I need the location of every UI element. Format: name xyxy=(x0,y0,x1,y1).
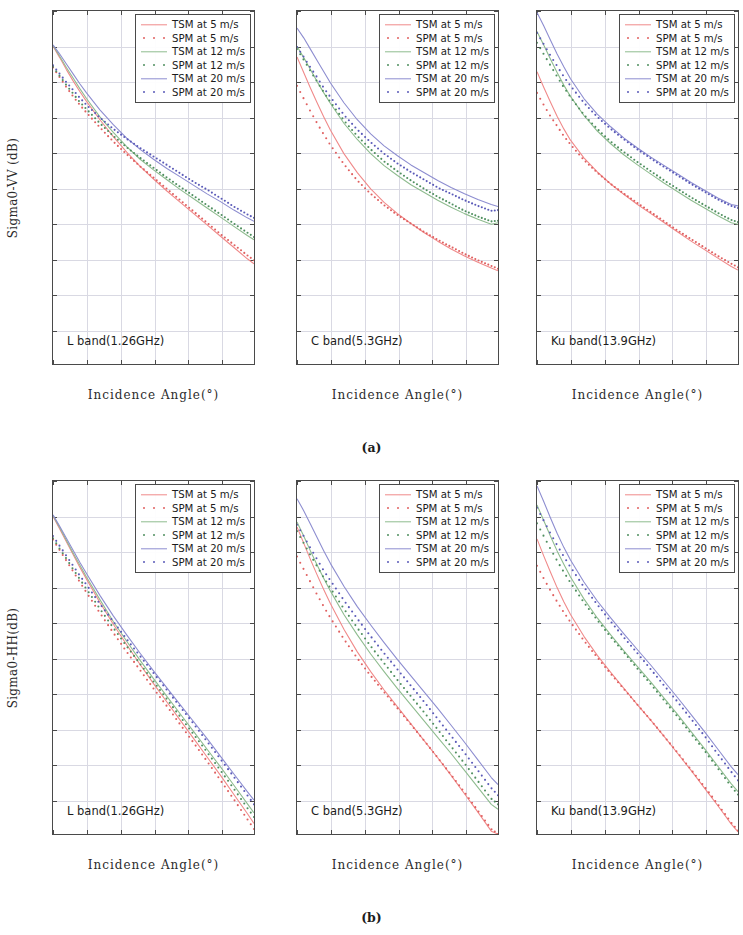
figure-row-hh: Sigma0-HH(dB) 102030405060701050−5−10−15… xyxy=(0,470,743,935)
legend: TSM at 5 m/sSPM at 5 m/sTSM at 12 m/sSPM… xyxy=(619,14,735,103)
y-axis-label-vv: Sigma0-VV (dB) xyxy=(0,0,26,375)
legend-item: SPM at 12 m/s xyxy=(383,59,489,73)
legend-item: TSM at 12 m/s xyxy=(383,515,489,529)
plot-area: 102030405060701050−5−10−15−20−25−30−35−4… xyxy=(536,10,739,365)
x-axis-label: Incidence Angle(°) xyxy=(296,388,499,402)
legend-item-label: TSM at 12 m/s xyxy=(169,516,245,527)
legend-item: TSM at 12 m/s xyxy=(383,45,489,59)
legend-item-label: TSM at 20 m/s xyxy=(653,73,729,84)
legend-item-label: SPM at 5 m/s xyxy=(169,503,239,514)
legend-item: SPM at 5 m/s xyxy=(383,502,489,516)
legend-dots-swatch xyxy=(383,556,413,570)
legend-line-swatch xyxy=(383,45,413,59)
legend-dots-swatch xyxy=(383,59,413,73)
legend-item: TSM at 5 m/s xyxy=(623,18,729,32)
legend-line-swatch xyxy=(139,18,169,32)
legend-item: SPM at 5 m/s xyxy=(139,502,245,516)
legend-item: TSM at 12 m/s xyxy=(139,515,245,529)
legend-item: SPM at 20 m/s xyxy=(383,556,489,570)
legend-item: SPM at 5 m/s xyxy=(139,32,245,46)
x-axis-label: Incidence Angle(°) xyxy=(536,388,739,402)
legend-dots-swatch xyxy=(139,59,169,73)
panel-hh-c-band: 102030405060701050−5−10−15−20−25−30−35−4… xyxy=(270,470,503,890)
legend-item-label: TSM at 12 m/s xyxy=(413,516,489,527)
legend-item-label: SPM at 20 m/s xyxy=(653,557,729,568)
legend-item-label: SPM at 20 m/s xyxy=(169,87,245,98)
legend-line-swatch xyxy=(139,45,169,59)
legend-item-label: TSM at 20 m/s xyxy=(169,543,245,554)
legend-dots-swatch xyxy=(139,86,169,100)
legend-dots-swatch xyxy=(623,502,653,516)
legend-item: SPM at 12 m/s xyxy=(623,529,729,543)
legend-item: SPM at 12 m/s xyxy=(623,59,729,73)
legend-item-label: TSM at 5 m/s xyxy=(413,19,483,30)
legend-line-swatch xyxy=(383,515,413,529)
legend-item-label: TSM at 12 m/s xyxy=(653,46,729,57)
x-axis-label: Incidence Angle(°) xyxy=(536,858,739,872)
legend-item-label: SPM at 5 m/s xyxy=(413,503,483,514)
panel-vv-ku-band: 102030405060701050−5−10−15−20−25−30−35−4… xyxy=(510,0,743,420)
legend: TSM at 5 m/sSPM at 5 m/sTSM at 12 m/sSPM… xyxy=(135,484,251,573)
legend-item: TSM at 12 m/s xyxy=(139,45,245,59)
legend-item: TSM at 5 m/s xyxy=(383,488,489,502)
plot-area: 102030405060701050−5−10−15−20−25−30−35−4… xyxy=(296,10,499,365)
legend-item-label: SPM at 5 m/s xyxy=(653,33,723,44)
legend-item-label: TSM at 20 m/s xyxy=(413,543,489,554)
legend-item: SPM at 20 m/s xyxy=(139,556,245,570)
band-label: L band(1.26GHz) xyxy=(67,804,164,818)
panel-hh-ku-band: 102030405060701050−5−10−15−20−25−30−35−4… xyxy=(510,470,743,890)
y-axis-label-hh-text: Sigma0-HH(dB) xyxy=(6,607,20,708)
series-dots xyxy=(53,537,254,818)
legend-dots-swatch xyxy=(383,529,413,543)
x-axis-label: Incidence Angle(°) xyxy=(296,858,499,872)
legend-item: TSM at 20 m/s xyxy=(623,72,729,86)
legend-item-label: SPM at 12 m/s xyxy=(169,60,245,71)
figure-row-vv: Sigma0-VV (dB) 102030405060701050−5−10−1… xyxy=(0,0,743,465)
legend-item: TSM at 5 m/s xyxy=(139,488,245,502)
legend-dots-swatch xyxy=(139,502,169,516)
legend-line-swatch xyxy=(623,45,653,59)
legend-item: SPM at 20 m/s xyxy=(383,86,489,100)
legend-line-swatch xyxy=(623,515,653,529)
plot-area: 102030405060701050−5−10−15−20−25−30−35−4… xyxy=(536,480,739,835)
panel-hh-l-band: 102030405060701050−5−10−15−20−25−30−35−4… xyxy=(26,470,259,890)
legend-item-label: TSM at 5 m/s xyxy=(169,19,239,30)
legend-dots-swatch xyxy=(623,556,653,570)
legend-item-label: SPM at 20 m/s xyxy=(653,87,729,98)
legend-dots-swatch xyxy=(139,556,169,570)
legend-item: TSM at 5 m/s xyxy=(139,18,245,32)
legend-item: TSM at 5 m/s xyxy=(383,18,489,32)
legend-item: TSM at 20 m/s xyxy=(623,542,729,556)
plot-area: 102030405060701050−5−10−15−20−25−30−35−4… xyxy=(52,10,255,365)
legend-dots-swatch xyxy=(623,59,653,73)
panel-vv-c-band: 102030405060701050−5−10−15−20−25−30−35−4… xyxy=(270,0,503,420)
legend-dots-swatch xyxy=(623,86,653,100)
series-line xyxy=(537,539,738,832)
x-axis-label: Incidence Angle(°) xyxy=(52,858,255,872)
legend-line-swatch xyxy=(383,488,413,502)
figure-root: Sigma0-VV (dB) 102030405060701050−5−10−1… xyxy=(0,0,743,935)
legend-line-swatch xyxy=(383,18,413,32)
legend-line-swatch xyxy=(139,488,169,502)
legend-line-swatch xyxy=(623,488,653,502)
band-label: C band(5.3GHz) xyxy=(311,334,402,348)
legend-item-label: SPM at 5 m/s xyxy=(169,33,239,44)
legend-item-label: TSM at 12 m/s xyxy=(169,46,245,57)
legend-item-label: SPM at 12 m/s xyxy=(653,60,729,71)
legend-dots-swatch xyxy=(623,529,653,543)
legend: TSM at 5 m/sSPM at 5 m/sTSM at 12 m/sSPM… xyxy=(379,484,495,573)
legend-dots-swatch xyxy=(623,32,653,46)
legend-dots-swatch xyxy=(139,529,169,543)
legend-line-swatch xyxy=(623,542,653,556)
subfigure-label-b: (b) xyxy=(0,910,743,925)
legend-item: TSM at 12 m/s xyxy=(623,45,729,59)
legend-line-swatch xyxy=(623,72,653,86)
x-axis-label: Incidence Angle(°) xyxy=(52,388,255,402)
legend-item-label: SPM at 12 m/s xyxy=(169,530,245,541)
legend-item: TSM at 20 m/s xyxy=(139,72,245,86)
series-dots xyxy=(537,565,738,832)
legend-item: SPM at 12 m/s xyxy=(139,529,245,543)
legend-item-label: SPM at 20 m/s xyxy=(413,87,489,98)
legend-item-label: TSM at 20 m/s xyxy=(653,543,729,554)
series-dots xyxy=(537,92,738,268)
